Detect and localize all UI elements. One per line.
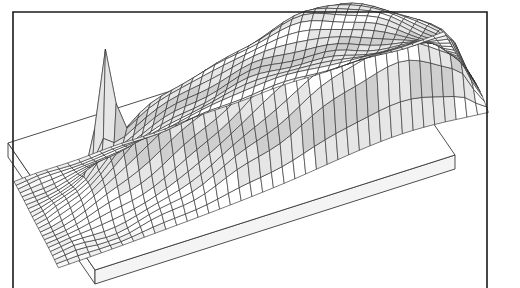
mesh-cell [439, 43, 452, 47]
surface-plot-canvas [0, 0, 520, 288]
figure-root [0, 0, 520, 288]
mesh-cell [103, 49, 116, 142]
